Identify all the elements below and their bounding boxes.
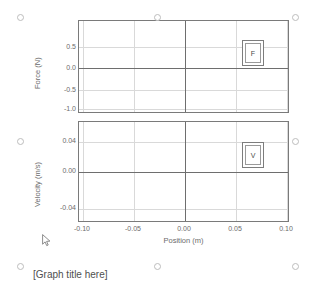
- legend-box-force[interactable]: F: [242, 40, 264, 66]
- force-gridline--0.5: [79, 90, 288, 91]
- force-zero-axis-horizontal: [79, 68, 288, 69]
- graph-object[interactable]: 0.5 0.0 -0.5 -1.0 Force (N) F 0.04 0.00 …: [20, 17, 292, 265]
- x-axis-label: Position (m): [78, 236, 289, 245]
- resize-handle-bottom-right[interactable]: [292, 263, 299, 270]
- velocity-axis-label: Velocity (m/s): [33, 162, 42, 207]
- force-gridline-x--0.05: [134, 21, 135, 112]
- legend-label-velocity: V: [245, 145, 261, 165]
- force-plot-panel[interactable]: [78, 20, 289, 113]
- velocity-ytick-2: -0.04: [36, 204, 76, 212]
- velocity-ytick-0: 0.04: [36, 137, 76, 145]
- force-gridline--1.0: [79, 109, 288, 110]
- resize-handle-top-center[interactable]: [154, 14, 161, 21]
- velocity-gridline--0.04: [79, 209, 288, 210]
- velocity-zero-axis-horizontal: [79, 172, 288, 173]
- velocity-zero-axis-vertical: [185, 122, 186, 221]
- resize-handle-middle-right[interactable]: [292, 138, 299, 145]
- resize-handle-bottom-left[interactable]: [17, 263, 24, 270]
- force-gridline-x-0.10: [287, 21, 288, 112]
- force-plot-area: [79, 21, 288, 112]
- xtick-1: -0.05: [113, 225, 153, 233]
- xtick-3: 0.05: [215, 225, 255, 233]
- resize-handle-top-left[interactable]: [17, 14, 24, 21]
- legend-box-velocity[interactable]: V: [242, 142, 264, 168]
- force-axis-label: Force (N): [33, 57, 42, 89]
- resize-handle-middle-left[interactable]: [17, 138, 24, 145]
- velocity-plot-panel[interactable]: [78, 121, 289, 222]
- resize-handle-bottom-center[interactable]: [154, 263, 161, 270]
- graph-title-placeholder[interactable]: [Graph title here]: [33, 269, 107, 280]
- legend-label-force: F: [245, 43, 261, 63]
- force-gridline-x-0.05: [236, 21, 237, 112]
- force-ytick-1: 0.0: [36, 64, 76, 72]
- xtick-0: -0.10: [62, 225, 102, 233]
- velocity-ytick-1: 0.00: [36, 167, 76, 175]
- xtick-4: 0.10: [266, 225, 306, 233]
- force-zero-axis-vertical: [185, 21, 186, 112]
- xtick-2: 0.00: [164, 225, 204, 233]
- velocity-plot-area: [79, 122, 288, 221]
- force-ytick-0: 0.5: [36, 43, 76, 51]
- force-ytick-3: -1.0: [36, 105, 76, 113]
- resize-handle-top-right[interactable]: [292, 14, 299, 21]
- arrow-pointer-icon: [42, 234, 51, 247]
- force-ytick-2: -0.5: [36, 86, 76, 94]
- force-gridline-x--0.10: [83, 21, 84, 112]
